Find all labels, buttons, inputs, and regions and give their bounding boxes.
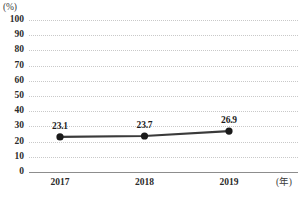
- data-point-label: 23.1: [52, 121, 68, 131]
- plot-area: 23.123.726.9: [29, 20, 298, 172]
- x-tick-label: 2017: [51, 177, 70, 187]
- y-axis-unit-label: (%): [3, 2, 17, 12]
- y-tick-label: 90: [0, 29, 24, 39]
- y-tick-label: 50: [0, 90, 24, 100]
- y-tick-label: 60: [0, 75, 24, 85]
- data-series-line: [29, 20, 298, 172]
- x-axis-line: [29, 172, 298, 173]
- y-axis-tick-labels: 1009080706050403020100: [0, 20, 26, 172]
- x-tick-label: 2019: [220, 177, 239, 187]
- x-axis-tick-labels: 201720182019: [29, 177, 298, 193]
- data-point-marker: [225, 128, 232, 135]
- y-tick-label: 10: [0, 151, 24, 161]
- x-tick-label: 2018: [135, 177, 154, 187]
- line-chart: (%) 1009080706050403020100 23.123.726.9 …: [0, 0, 306, 198]
- data-point-label: 23.7: [137, 120, 153, 130]
- y-tick-label: 100: [0, 14, 24, 24]
- data-point-marker: [141, 132, 148, 139]
- y-tick-label: 40: [0, 105, 24, 115]
- data-point-marker: [56, 133, 63, 140]
- data-point-label: 26.9: [221, 115, 237, 125]
- y-tick-label: 70: [0, 60, 24, 70]
- y-tick-label: 0: [0, 166, 24, 176]
- y-tick-label: 80: [0, 44, 24, 54]
- y-tick-label: 30: [0, 120, 24, 130]
- x-axis-unit-label: (年): [276, 174, 292, 188]
- y-tick-label: 20: [0, 136, 24, 146]
